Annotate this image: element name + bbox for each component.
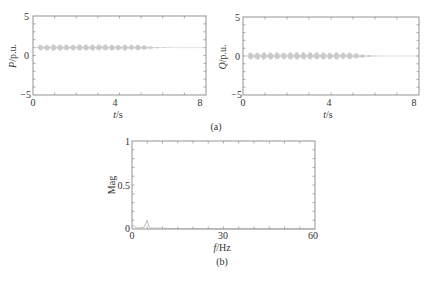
- plot-spectrum-ytick-1: 1: [125, 136, 130, 147]
- plot-p: 5 0 −5 0 4 8 t/s P/p.u.: [7, 11, 206, 120]
- plot-q-ylabel: Q/p.u.: [217, 44, 228, 69]
- plot-spectrum-ticks: [132, 141, 315, 229]
- plot-spectrum-ytick-0.5: 0.5: [118, 180, 131, 191]
- plot-spectrum-xtick-60: 60: [308, 230, 318, 241]
- figure: 5 0 −5 0 4 8 t/s P/p.u. 5 0 −5 0 4 8 t/s…: [0, 0, 431, 282]
- plot-spectrum-xtick-0: 0: [130, 230, 135, 241]
- plot-q-ytick-5: 5: [235, 12, 240, 23]
- plot-q-xlabel: t/s: [323, 109, 333, 120]
- plot-p-xtick-0: 0: [31, 97, 36, 108]
- panel-label-b: (b): [216, 256, 228, 268]
- plot-spectrum: 1 0.5 0 0 30 60 f/Hz Mag: [106, 136, 318, 253]
- plot-q-trace: [244, 52, 419, 60]
- plot-spectrum-ylabel: Mag: [106, 176, 117, 194]
- panel-label-a: (a): [210, 121, 221, 133]
- plot-q-xtick-0: 0: [241, 97, 246, 108]
- plot-p-ytick-neg5: −5: [20, 89, 31, 100]
- plot-q-xtick-8: 8: [412, 97, 417, 108]
- plot-p-ylabel: P/p.u.: [7, 44, 18, 69]
- plot-p-ytick-0: 0: [24, 50, 29, 61]
- plot-p-ytick-5: 5: [24, 11, 29, 22]
- plot-p-ticks: [33, 16, 206, 95]
- plot-p-xtick-4: 4: [113, 97, 118, 108]
- plot-spectrum-frame: [132, 141, 315, 229]
- plot-p-frame: [33, 16, 206, 95]
- plot-spectrum-xlabel: f/Hz: [213, 242, 231, 253]
- plot-spectrum-xtick-30: 30: [218, 230, 228, 241]
- plot-p-trace: [34, 44, 206, 51]
- plot-q: 5 0 −5 0 4 8 t/s Q/p.u.: [217, 12, 419, 120]
- plot-p-xtick-8: 8: [198, 97, 203, 108]
- plot-q-ytick-0: 0: [235, 51, 240, 62]
- plot-p-xlabel: t/s: [113, 109, 123, 120]
- plot-q-xtick-4: 4: [327, 97, 332, 108]
